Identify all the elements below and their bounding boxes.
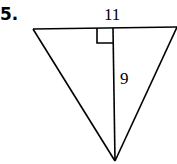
triangle-left-side	[33, 29, 115, 161]
triangle-altitude	[113, 28, 115, 161]
height-label: 9	[120, 69, 129, 88]
base-label: 11	[104, 5, 120, 24]
triangle-right-side	[115, 27, 177, 161]
triangle-diagram: 11 9	[0, 0, 177, 164]
triangle-base	[33, 27, 177, 29]
right-angle-marker	[97, 28, 113, 43]
